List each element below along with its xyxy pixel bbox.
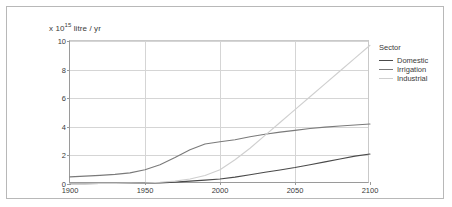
y-axis-tick-label: 6 bbox=[62, 94, 66, 103]
series-lines bbox=[70, 41, 370, 184]
y-axis-tick-label: 8 bbox=[62, 65, 66, 74]
legend-entries: DomesticIrrigationIndustrial bbox=[379, 56, 428, 83]
legend-title: Sector bbox=[379, 43, 428, 52]
legend-swatch-icon bbox=[379, 78, 393, 79]
x-axis-tick-label: 2100 bbox=[362, 186, 379, 195]
y-axis-tick-label: 2 bbox=[62, 151, 66, 160]
plot-area: 024681019001950200020502100 bbox=[69, 40, 369, 183]
legend-item-label: Domestic bbox=[397, 56, 428, 65]
legend-item-domestic[interactable]: Domestic bbox=[379, 56, 428, 65]
x-axis-tick-label: 2000 bbox=[212, 186, 229, 195]
y-axis-unit-label: x 1015 litre / yr bbox=[49, 22, 101, 33]
x-axis-tick-mark bbox=[370, 182, 371, 185]
legend-swatch-icon bbox=[379, 69, 393, 70]
series-line-industrial bbox=[70, 45, 370, 183]
series-line-domestic bbox=[70, 154, 370, 184]
y-axis-tick-label: 10 bbox=[58, 37, 66, 46]
x-axis-tick-label: 1950 bbox=[137, 186, 154, 195]
legend-item-label: Industrial bbox=[397, 74, 427, 83]
legend-swatch-icon bbox=[379, 60, 393, 61]
x-axis-tick-label: 1900 bbox=[62, 186, 79, 195]
y-axis-unit-suffix: litre / yr bbox=[71, 24, 101, 33]
legend-item-industrial[interactable]: Industrial bbox=[379, 74, 428, 83]
x-axis-tick-label: 2050 bbox=[287, 186, 304, 195]
y-axis-tick-label: 4 bbox=[62, 122, 66, 131]
y-axis-unit-prefix: x 10 bbox=[49, 24, 65, 33]
legend-item-label: Irrigation bbox=[397, 65, 426, 74]
legend-item-irrigation[interactable]: Irrigation bbox=[379, 65, 428, 74]
series-line-irrigation bbox=[70, 124, 370, 177]
figure-panel: x 1015 litre / yr 0246810190019502000205… bbox=[6, 6, 444, 199]
legend: Sector DomesticIrrigationIndustrial bbox=[379, 43, 428, 83]
